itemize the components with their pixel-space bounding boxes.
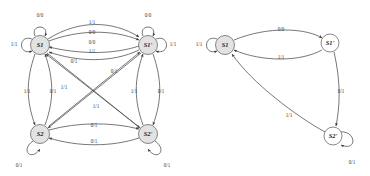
self-loop-s1p-top xyxy=(142,27,154,36)
label-edge-r-s2p-s1: 1/1 xyxy=(286,112,293,118)
label-edge-s2p-s1: 1/1 xyxy=(93,103,100,109)
label-edge-s1-s1p-2: 0/0 xyxy=(89,29,96,35)
label-self-loop-r-s2p-bottom: 0/1 xyxy=(349,159,356,165)
label-edge-s2p-s1p: 1/1 xyxy=(131,88,138,94)
label-self-loop-s1p-right: 1/1 xyxy=(170,41,177,47)
label-edge-s1p-s1-2: 1/1 xyxy=(89,48,96,54)
label-edge-s1p-s1-1: 0/0 xyxy=(89,39,96,45)
label-edge-s1p-s2p: 0/1 xyxy=(158,88,165,94)
node-label-s1-prime: S1' xyxy=(144,41,153,48)
node-label-r-s2-prime: S2' xyxy=(329,132,338,139)
label-self-loop-r-s1-left: 1/1 xyxy=(196,41,203,47)
label-edge-r-s1p-s1: 1/1 xyxy=(278,54,285,60)
node-label-s2: S2 xyxy=(37,130,45,137)
label-self-loop-s2p-bottom: 0/1 xyxy=(164,162,171,168)
label-edge-s2-s1p: 1/1 xyxy=(61,84,68,90)
node-label-r-s1: S1 xyxy=(222,41,229,48)
edge-s2p-to-s1 xyxy=(46,54,139,127)
label-edge-r-s1p-s2p: 0/1 xyxy=(338,88,345,94)
node-label-s2-prime: S2' xyxy=(144,130,153,137)
label-edge-s1-s2: 1/1 xyxy=(24,88,31,94)
label-self-loop-s1p-top: 0/0 xyxy=(145,12,152,18)
node-label-r-s1-prime: S1' xyxy=(326,39,335,46)
label-self-loop-s2-bottom: 0/1 xyxy=(16,162,23,168)
left-diagram: S1 S1' S2 S2' 0/0 1/1 0/0 1/1 0/1 0/1 1/… xyxy=(11,12,177,168)
node-label-s1: S1 xyxy=(37,41,44,48)
label-self-loop-s1-left: 1/1 xyxy=(11,41,18,47)
label-edge-r-s1-s1p: 0/0 xyxy=(278,26,285,32)
label-edge-s1-s1p-1: 1/1 xyxy=(89,19,96,25)
self-loop-s1-top xyxy=(34,27,46,36)
label-edge-s2-s2p: 0/1 xyxy=(91,122,98,128)
edge-r-s2p-to-s1 xyxy=(232,54,325,132)
label-edge-s1-s2p: 0/1 xyxy=(71,58,78,64)
edge-s1p-to-s2 xyxy=(48,53,141,128)
label-self-loop-s1-top: 0/0 xyxy=(37,12,44,18)
state-diagram-figure: S1 S1' S2 S2' 0/0 1/1 0/0 1/1 0/1 0/1 1/… xyxy=(0,0,370,176)
label-edge-s2-s1: 0/1 xyxy=(50,88,57,94)
right-diagram: S1 S1' S2' 1/1 0/1 0/0 1/1 0/1 1/1 xyxy=(196,26,356,165)
label-edge-s1p-s2: 0/1 xyxy=(111,68,118,74)
label-edge-s2p-s2: 0/1 xyxy=(91,138,98,144)
